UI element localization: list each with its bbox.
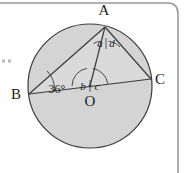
margin-dot-1 (2, 60, 5, 63)
angle-label-a: a (97, 37, 103, 49)
vertex-label-c: C (155, 71, 165, 87)
vertex-label-o: O (85, 93, 96, 109)
geometry-diagram: A B C O a d b c 36° (0, 0, 184, 173)
vertex-label-b: B (11, 86, 21, 102)
geometry-figure-panel: A B C O a d b c 36° (0, 0, 184, 173)
margin-dot-2 (8, 60, 11, 63)
vertex-label-a: A (99, 2, 110, 18)
angle-label-36-degrees: 36° (49, 82, 66, 96)
angle-label-b: b (80, 80, 86, 92)
angle-label-c: c (95, 80, 100, 92)
angle-label-d: d (109, 37, 115, 49)
